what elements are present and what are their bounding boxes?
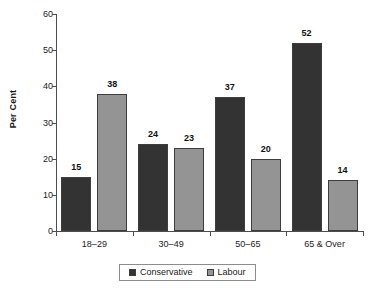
- y-tick-label: 40: [23, 82, 53, 91]
- bar-value-label: 23: [174, 134, 204, 143]
- bar-value-label: 38: [97, 80, 127, 89]
- bar-value-label: 15: [61, 163, 91, 172]
- bar-conservative: [215, 97, 245, 231]
- bar-labour: [251, 159, 281, 231]
- y-tick-label: 30: [23, 119, 53, 128]
- bar-labour: [174, 148, 204, 231]
- bar-chart: Per Cent 0102030405060 1538242337205214 …: [0, 0, 376, 293]
- x-tick-mark: [286, 231, 287, 236]
- y-tick-mark: [52, 14, 56, 15]
- bar-conservative: [138, 144, 168, 231]
- x-tick-mark: [56, 231, 57, 236]
- y-tick-label: 50: [23, 46, 53, 55]
- x-tick-mark: [363, 231, 364, 236]
- bar-value-label: 20: [251, 145, 281, 154]
- chart-legend: Conservative Labour: [119, 264, 256, 281]
- legend-item-conservative: Conservative: [129, 268, 193, 277]
- legend-label-labour: Labour: [218, 268, 246, 277]
- y-tick-label: 60: [23, 10, 53, 19]
- x-category-label: 65 & Over: [286, 239, 363, 249]
- bar-value-label: 24: [138, 130, 168, 139]
- x-tick-mark: [210, 231, 211, 236]
- bar-labour: [328, 180, 358, 231]
- y-tick-label: 0: [23, 227, 53, 236]
- y-tick-mark: [52, 123, 56, 124]
- y-tick-mark: [52, 86, 56, 87]
- y-tick-label: 20: [23, 155, 53, 164]
- legend-swatch-conservative: [129, 269, 136, 276]
- bar-value-label: 14: [328, 166, 358, 175]
- x-category-label: 30–49: [133, 239, 210, 249]
- y-tick-mark: [52, 159, 56, 160]
- plot-area: 0102030405060 1538242337205214 18–2930–4…: [56, 14, 363, 231]
- y-axis-line: [56, 14, 57, 232]
- bar-conservative: [61, 177, 91, 231]
- legend-item-labour: Labour: [207, 268, 246, 277]
- bar-labour: [97, 94, 127, 231]
- y-tick-mark: [52, 195, 56, 196]
- bar-value-label: 52: [292, 29, 322, 38]
- y-tick-label: 10: [23, 191, 53, 200]
- x-category-label: 18–29: [56, 239, 133, 249]
- x-tick-mark: [133, 231, 134, 236]
- x-category-label: 50–65: [210, 239, 287, 249]
- legend-label-conservative: Conservative: [140, 268, 193, 277]
- bar-value-label: 37: [215, 83, 245, 92]
- bar-conservative: [292, 43, 322, 231]
- legend-swatch-labour: [207, 269, 214, 276]
- y-axis-title: Per Cent: [8, 69, 18, 149]
- y-tick-mark: [52, 50, 56, 51]
